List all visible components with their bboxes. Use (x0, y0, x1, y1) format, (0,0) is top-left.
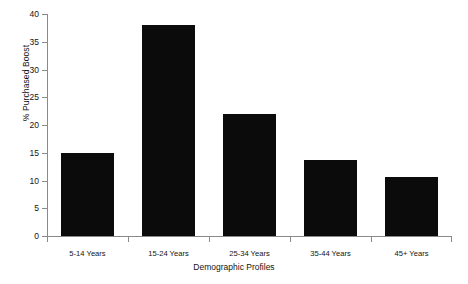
y-tick-label: 5 (34, 204, 39, 213)
x-tick (290, 236, 291, 242)
y-tick (42, 42, 47, 43)
x-tick-label: 15-24 Years (148, 250, 189, 258)
bar (142, 25, 195, 236)
y-tick-label: 15 (30, 149, 39, 158)
y-tick-label: 40 (30, 10, 39, 19)
y-tick (42, 153, 47, 154)
x-tick (451, 236, 452, 242)
y-tick-label: 30 (30, 65, 39, 74)
y-tick (42, 181, 47, 182)
y-tick (42, 125, 47, 126)
bar-chart: % Purchased Boost 0510152025303540 5-14 … (0, 0, 468, 284)
y-tick-label: 35 (30, 38, 39, 47)
y-tick (42, 14, 47, 15)
x-tick (209, 236, 210, 242)
bar (223, 114, 276, 236)
plot-area: 0510152025303540 5-14 Years15-24 Years25… (47, 14, 452, 236)
y-tick-label: 10 (30, 176, 39, 185)
y-axis-line (47, 14, 48, 236)
x-axis-title: Demographic Profiles (0, 262, 468, 272)
x-tick (128, 236, 129, 242)
y-tick (42, 208, 47, 209)
x-tick (371, 236, 372, 242)
y-tick-label: 25 (30, 93, 39, 102)
x-tick (47, 236, 48, 242)
x-tick-label: 35-44 Years (310, 250, 351, 258)
x-axis-line (47, 236, 452, 237)
y-tick (42, 97, 47, 98)
x-tick-label: 45+ Years (395, 250, 429, 258)
y-axis-title: % Purchased Boost (21, 13, 31, 153)
y-tick (42, 70, 47, 71)
bar (61, 153, 114, 236)
x-tick-label: 25-34 Years (229, 250, 270, 258)
y-tick-label: 20 (30, 121, 39, 130)
x-tick-label: 5-14 Years (69, 250, 105, 258)
bar (385, 177, 438, 236)
y-tick-label: 0 (34, 232, 39, 241)
bar (304, 160, 357, 236)
